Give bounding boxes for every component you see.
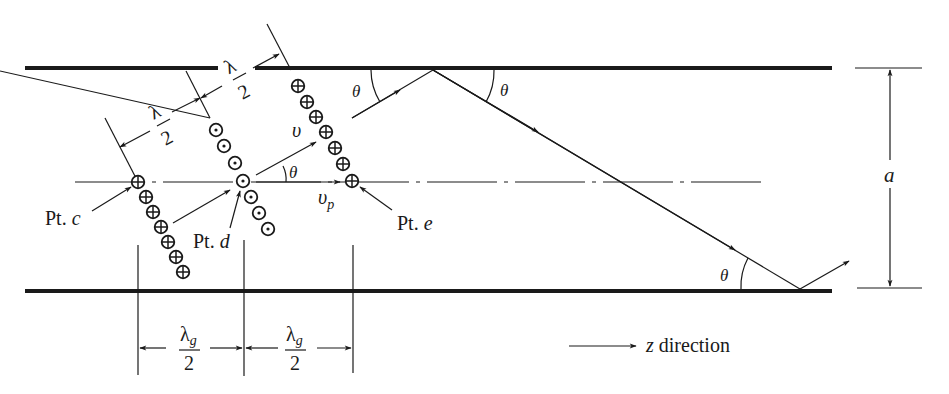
lambda-g-right-num: λg	[286, 323, 303, 348]
theta-arc-top-left	[371, 70, 380, 102]
z-direction-label: z direction	[645, 334, 730, 356]
pt-c-label: Pt. c	[45, 207, 81, 229]
wavefront-e	[267, 24, 358, 187]
pt-c-pointer	[92, 187, 131, 211]
theta-label-top-right: θ	[500, 81, 508, 100]
wavefront-c	[105, 118, 189, 278]
wavefront-d	[0, 71, 274, 235]
theta-label-top-left: θ	[352, 82, 360, 101]
lambda-half-dimension-left	[120, 98, 200, 147]
pt-d-pointer	[230, 191, 240, 228]
theta-label-center: θ	[289, 163, 297, 182]
theta-label-bottom: θ	[720, 266, 728, 285]
theta-arc-center	[283, 166, 286, 182]
v-vector	[256, 142, 316, 175]
waveguide-diagram: λ 2 λ 2 υ θ υp θ θ θ Pt. c Pt. d Pt. e a	[0, 0, 949, 394]
lambda-g-right-den: 2	[290, 352, 300, 374]
lambda-half-top-den: 2	[234, 80, 253, 104]
lambda-g-left-num: λg	[180, 323, 197, 348]
lambda-half-left-den: 2	[157, 126, 176, 150]
lambda-half-left-num: λ	[145, 100, 164, 124]
v-label: υ	[292, 119, 301, 141]
lambda-half-top-num: λ	[220, 54, 239, 78]
pt-e-label: Pt. e	[397, 212, 433, 234]
theta-arc-top-right	[486, 70, 494, 102]
pt-c-to-d-pointer	[173, 190, 230, 223]
reflected-ray	[352, 70, 849, 289]
lambda-g-left-den: 2	[184, 352, 194, 374]
vp-label: υp	[318, 186, 334, 212]
theta-arc-bottom	[741, 258, 748, 289]
a-label: a	[884, 163, 895, 187]
pt-e-pointer	[360, 187, 392, 210]
pt-d-label: Pt. d	[193, 230, 231, 252]
